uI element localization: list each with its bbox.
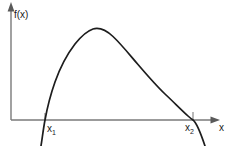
x-axis-label: x (219, 123, 224, 133)
root-label-x2-subscript: 2 (190, 128, 194, 135)
function-curve (41, 28, 205, 146)
root-label-x1-subscript: 1 (52, 129, 56, 136)
function-plot-figure: f(x) x x1 x2 (0, 0, 230, 146)
root-label-x1: x1 (47, 124, 56, 136)
root-label-x2: x2 (185, 123, 194, 135)
plot-canvas (0, 0, 230, 146)
y-axis-label: f(x) (14, 10, 28, 20)
